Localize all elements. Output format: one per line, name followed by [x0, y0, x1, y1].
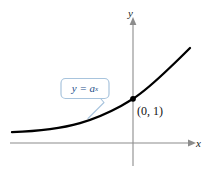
x-axis-arrowhead — [188, 140, 196, 147]
exponential-function-figure: y x (0, 1) y = ax — [0, 0, 209, 175]
x-axis — [10, 140, 196, 147]
y-axis — [130, 17, 137, 166]
point-label: (0, 1) — [137, 105, 163, 117]
y-axis-label: y — [128, 8, 133, 19]
callout-label: y = ax — [63, 80, 107, 97]
point-marker — [130, 96, 136, 102]
x-axis-label: x — [196, 138, 201, 149]
callout-base-text: y = a — [72, 83, 95, 94]
